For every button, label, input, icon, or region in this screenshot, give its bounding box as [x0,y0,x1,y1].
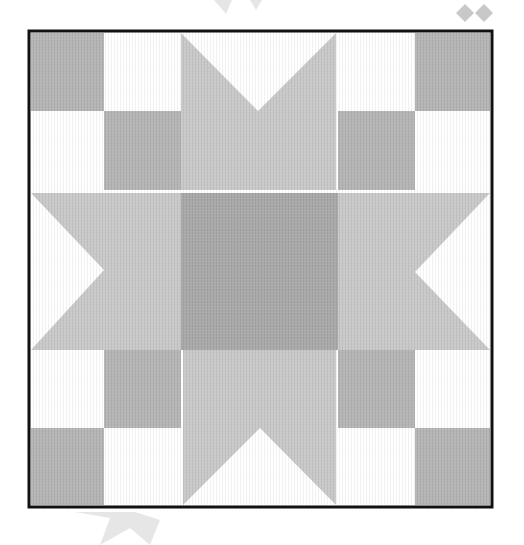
fabric-texture-overlay [29,31,492,507]
diamond-right-decoration [475,4,493,22]
faded-star-top-decoration [214,0,262,14]
faded-star-bottom-decoration [75,512,160,545]
quilt-block-svg [0,0,524,545]
quilt-block-image [0,0,524,545]
diamond-left-decoration [456,4,474,22]
